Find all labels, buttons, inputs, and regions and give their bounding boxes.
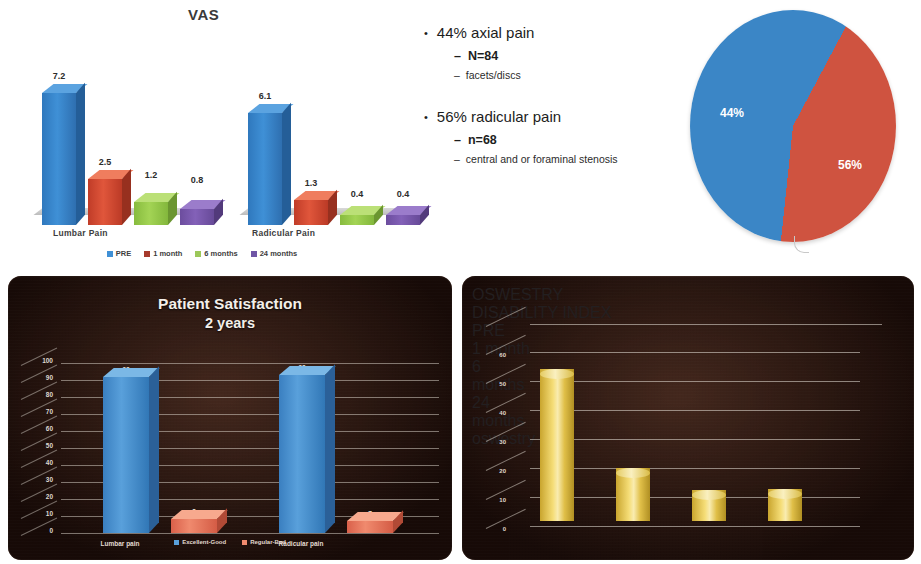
- bullet-radicular-pain: • 56% radicular pain: [424, 108, 654, 127]
- pie-chart: 44% 56%: [672, 4, 912, 262]
- slide-canvas: VAS 7.2 2.5 1.2 0.8 6.1: [0, 0, 921, 564]
- vas-legend-label: 24 months: [260, 249, 298, 258]
- satisfaction-title-line1: Patient Satisfaction: [17, 294, 443, 314]
- dash-icon: –: [454, 153, 460, 166]
- oswestry-title-line2: DISABILITY INDEX: [472, 304, 904, 322]
- sat-bar-radicular-excellent: 93: [279, 375, 325, 533]
- satisfaction-title-line2: 2 years: [17, 314, 443, 333]
- bullet-radicular-label: 56% radicular pain: [437, 108, 561, 127]
- bullet-axial-detail-label: facets/discs: [466, 69, 521, 82]
- vas-bar-radicular-24months: 0.4: [386, 215, 420, 225]
- vas-bar-radicular-6months: 0.4: [340, 215, 374, 225]
- vas-bar-value: 2.5: [82, 157, 128, 167]
- pie-leader-line: [794, 236, 809, 253]
- pie-graphic: 44% 56%: [690, 10, 896, 242]
- bullet-list: • 44% axial pain – N=84 – facets/discs •…: [424, 24, 654, 166]
- patient-satisfaction-chart: Patient Satisfaction 2 years 100 90 80 7…: [8, 276, 452, 560]
- oswestry-plot: OSWESTRY DISABILITY INDEX 60 50 40 30 20…: [472, 286, 904, 550]
- vas-legend-item-1month: 1 month: [144, 249, 182, 258]
- vas-legend-item-6months: 6 months: [195, 249, 237, 258]
- legend-swatch-icon: [107, 251, 113, 257]
- osw-bar-6months: 10.2: [692, 495, 726, 526]
- vas-legend-item-24months: 24 months: [251, 249, 298, 258]
- vas-bar-value: 1.3: [288, 178, 334, 188]
- vas-bar-lumbar-pre: 7.2: [42, 93, 76, 225]
- vas-plot-area: 7.2 2.5 1.2 0.8 6.1 1.3: [0, 30, 420, 225]
- sat-bar-radicular-regular: 7: [347, 521, 393, 533]
- osw-bar-1month: 18.5: [616, 473, 650, 526]
- oswestry-title: OSWESTRY DISABILITY INDEX: [472, 286, 904, 322]
- legend-swatch-icon: [242, 540, 247, 545]
- vas-bar-radicular-1month: 1.3: [294, 200, 328, 225]
- bullet-axial-n-label: N=84: [468, 49, 498, 63]
- sat-legend-item-regular: Regular-Bad: [242, 539, 286, 545]
- bullet-axial-label: 44% axial pain: [437, 24, 535, 43]
- vas-legend-label: PRE: [116, 249, 131, 258]
- oswestry-bars: 54.3 18.5 10.2 10.4: [530, 352, 860, 526]
- vas-bar-value: 0.8: [174, 175, 220, 185]
- bullet-dot-icon: •: [424, 24, 428, 43]
- oswestry-chart: OSWESTRY DISABILITY INDEX 60 50 40 30 20…: [462, 276, 914, 560]
- vas-legend: PRE 1 month 6 months 24 months: [52, 249, 352, 258]
- sat-legend-label: Excellent-Good: [182, 539, 226, 545]
- vas-chart: VAS 7.2 2.5 1.2 0.8 6.1: [0, 0, 420, 270]
- satisfaction-plot: Patient Satisfaction 2 years 100 90 80 7…: [17, 285, 443, 551]
- sat-bar-lumbar-regular: 8: [171, 519, 217, 533]
- legend-swatch-icon: [174, 540, 179, 545]
- pie-label-44: 44%: [720, 106, 744, 120]
- vas-bar-value: 1.2: [128, 170, 174, 180]
- vas-legend-item-pre: PRE: [107, 249, 131, 258]
- osw-xlabel-pre: PRE: [472, 322, 532, 340]
- sat-legend-label: Regular-Bad: [250, 539, 286, 545]
- vas-bar-value: 0.4: [334, 189, 380, 199]
- pie-label-56: 56%: [838, 158, 862, 172]
- bullet-radicular-detail: – central and or foraminal stenosis: [454, 153, 622, 166]
- vas-chart-title: VAS: [188, 6, 219, 23]
- legend-swatch-icon: [144, 251, 150, 257]
- bullet-radicular-n: – n=68: [454, 133, 654, 147]
- bullet-radicular-detail-label: central and or foraminal stenosis: [466, 153, 618, 166]
- vas-xlabel-radicular: Radicular Pain: [252, 228, 315, 238]
- legend-swatch-icon: [195, 251, 201, 257]
- vas-bar-lumbar-6months: 1.2: [134, 202, 168, 225]
- bullet-axial-pain: • 44% axial pain: [424, 24, 654, 43]
- bullet-axial-detail: – facets/discs: [454, 69, 654, 82]
- vas-bar-value: 0.4: [380, 189, 426, 199]
- satisfaction-legend: Excellent-Good Regular-Bad: [17, 539, 443, 545]
- sat-legend-item-excellent: Excellent-Good: [174, 539, 226, 545]
- vas-bar-lumbar-24months: 0.8: [180, 209, 214, 225]
- bullet-radicular-n-label: n=68: [468, 133, 497, 147]
- vas-bar-value: 6.1: [242, 91, 288, 101]
- osw-bar-24months: 10.4: [768, 494, 802, 526]
- legend-swatch-icon: [251, 251, 257, 257]
- oswestry-title-line1: OSWESTRY: [472, 286, 904, 304]
- vas-xlabel-lumbar: Lumbar Pain: [53, 228, 108, 238]
- dash-icon: –: [454, 133, 461, 147]
- satisfaction-title: Patient Satisfaction 2 years: [17, 294, 443, 334]
- satisfaction-bars: 92 8 93 7: [61, 363, 439, 533]
- osw-bar-pre: 54.3: [540, 374, 574, 526]
- bullet-dot-icon: •: [424, 108, 428, 127]
- dash-icon: –: [454, 49, 461, 63]
- vas-legend-label: 1 month: [153, 249, 182, 258]
- dash-icon: –: [454, 69, 460, 82]
- bullet-axial-n: – N=84: [454, 49, 654, 63]
- vas-legend-label: 6 months: [204, 249, 237, 258]
- vas-bar-lumbar-1month: 2.5: [88, 179, 122, 225]
- vas-bar-value: 7.2: [36, 71, 82, 81]
- sat-bar-lumbar-excellent: 92: [103, 377, 149, 533]
- vas-bar-radicular-pre: 6.1: [248, 113, 282, 225]
